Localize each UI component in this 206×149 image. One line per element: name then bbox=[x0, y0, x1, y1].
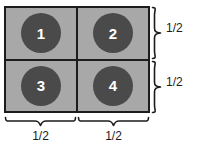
grid-cell[interactable]: 1 bbox=[6, 8, 77, 60]
cell-number: 4 bbox=[109, 78, 117, 93]
grid-cell[interactable]: 3 bbox=[6, 60, 77, 112]
cell-disc: 1 bbox=[21, 13, 61, 53]
cell-number: 3 bbox=[37, 78, 45, 93]
vertical-brace-bottom bbox=[151, 60, 163, 114]
cell-disc: 3 bbox=[21, 66, 61, 106]
vertical-dimension-label-top: 1/2 bbox=[166, 21, 183, 35]
horizontal-dimension-label-left: 1/2 bbox=[4, 129, 77, 143]
vertical-dimension-label-bottom: 1/2 bbox=[166, 75, 183, 89]
horizontal-brace-left bbox=[4, 116, 77, 127]
horizontal-dimension-label-right: 1/2 bbox=[77, 129, 150, 143]
unit-square-grid: 1 2 3 4 bbox=[4, 6, 150, 113]
cell-disc: 2 bbox=[93, 13, 133, 53]
cell-number: 1 bbox=[37, 26, 45, 41]
horizontal-brace-right bbox=[77, 116, 150, 127]
cell-number: 2 bbox=[109, 26, 117, 41]
grid-cell[interactable]: 2 bbox=[77, 8, 148, 60]
vertical-brace-top bbox=[151, 6, 163, 60]
area-model-figure: 1 2 3 4 1/2 1/2 bbox=[0, 0, 206, 149]
cell-disc: 4 bbox=[93, 66, 133, 106]
grid-cell[interactable]: 4 bbox=[77, 60, 148, 112]
